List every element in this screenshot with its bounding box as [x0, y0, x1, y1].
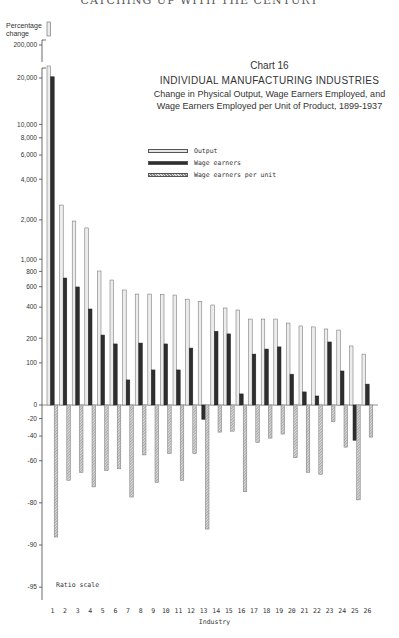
bar-wage-earners-6: [114, 344, 118, 405]
bar-output-16: [236, 310, 240, 405]
bar-output-23: [324, 329, 328, 405]
bar-output-8: [135, 294, 139, 405]
bar-wage-earners-per-unit-14: [218, 405, 222, 432]
bar-wage-earners-5: [101, 335, 105, 405]
bar-output-17: [249, 319, 253, 405]
bar-wage-earners-22: [315, 396, 319, 405]
bar-output-11: [173, 295, 177, 405]
bar-output-18: [261, 319, 265, 405]
x-axis-label: Industry: [0, 618, 399, 626]
x-category-label: 4: [88, 607, 92, 615]
x-category-label: 6: [113, 607, 117, 615]
bar-wage-earners-23: [328, 342, 332, 405]
y-axis: 200,00020,00010,0008,0006,0004,0002,0001…: [14, 40, 379, 600]
bar-wage-earners-per-unit-12: [193, 405, 197, 454]
bar-output-15: [223, 308, 227, 405]
bar-wage-earners-per-unit-17: [256, 405, 260, 442]
bar-output-3: [72, 221, 76, 405]
y-tick-label: 0: [33, 401, 37, 408]
y-tick-label: -20: [28, 415, 38, 422]
bar-wage-earners-per-unit-7: [130, 405, 134, 497]
bar-output-13: [198, 301, 202, 405]
x-category-label: 16: [237, 607, 245, 615]
bar-wage-earners-21: [303, 392, 307, 405]
bar-wage-earners-per-unit-2: [67, 405, 71, 480]
bar-wage-earners-10: [164, 344, 168, 405]
bar-output-12: [186, 299, 190, 405]
y-tick-label: 200,000: [14, 41, 38, 48]
bar-wage-earners-2: [63, 278, 67, 405]
bar-wage-earners-11: [177, 370, 181, 405]
y-tick-label: 8,000: [21, 134, 38, 141]
bars: [47, 22, 373, 537]
bar-wage-earners-4: [88, 309, 92, 405]
bar-wage-earners-7: [126, 380, 130, 405]
bar-wage-earners-per-unit-13: [205, 405, 209, 529]
bar-output-2: [60, 205, 64, 405]
bar-output-21: [299, 326, 303, 405]
bar-wage-earners-per-unit-19: [281, 405, 285, 434]
bar-wage-earners-18: [265, 349, 269, 405]
bar-wage-earners-per-unit-20: [294, 405, 298, 458]
x-category-label: 2: [63, 607, 67, 615]
bar-output-9: [148, 294, 152, 405]
bar-output-5: [97, 271, 101, 405]
x-category-label: 13: [200, 607, 208, 615]
bar-wage-earners-13: [202, 405, 206, 419]
bar-wage-earners-per-unit-21: [306, 405, 310, 472]
chart-plot-area: 200,00020,00010,0008,0006,0004,0002,0001…: [0, 0, 399, 638]
bar-wage-earners-per-unit-22: [319, 405, 323, 474]
y-tick-label: -40: [28, 432, 38, 439]
x-category-label: 26: [363, 607, 371, 615]
bar-wage-earners-per-unit-1: [54, 405, 58, 537]
x-category-label: 7: [126, 607, 130, 615]
bar-output-1: [47, 66, 51, 405]
bar-wage-earners-1: [51, 77, 55, 405]
bar-wage-earners-17: [252, 354, 256, 405]
x-category-label: 25: [351, 607, 359, 615]
bar-wage-earners-per-unit-10: [168, 405, 172, 454]
bar-output-14: [211, 305, 215, 405]
x-category-label: 19: [275, 607, 283, 615]
y-tick-label: -60: [28, 457, 38, 464]
y-tick-label: 100: [26, 359, 37, 366]
y-tick-label: 1,000: [21, 256, 38, 263]
bar-output-22: [312, 327, 316, 405]
bar-wage-earners-per-unit-15: [231, 405, 235, 431]
x-category-label: 17: [250, 607, 258, 615]
x-category-label: 10: [162, 607, 170, 615]
y-tick-label: 400: [26, 303, 37, 310]
bar-wage-earners-per-unit-8: [142, 405, 146, 455]
bar-output-19: [274, 319, 278, 405]
y-tick-label: 800: [26, 268, 37, 275]
bar-output-20: [286, 323, 290, 405]
bar-wage-earners-24: [340, 371, 344, 405]
bar-wage-earners-26: [366, 384, 370, 405]
y-tick-label: 4,000: [21, 176, 38, 183]
bar-wage-earners-per-unit-9: [155, 405, 159, 482]
bar-wage-earners-per-unit-23: [331, 405, 335, 422]
bar-output-24: [337, 330, 341, 405]
bar-wage-earners-per-unit-24: [344, 405, 348, 447]
x-category-label: 20: [288, 607, 296, 615]
bar-wage-earners-15: [227, 334, 231, 405]
bar-wage-earners-per-unit-6: [117, 405, 121, 469]
bar-wage-earners-per-unit-4: [92, 405, 96, 487]
x-category-label: 5: [101, 607, 105, 615]
x-category-label: 24: [338, 607, 346, 615]
ratio-scale-note: Ratio scale: [56, 581, 99, 589]
bar-wage-earners-25: [353, 405, 357, 440]
x-category-label: 12: [187, 607, 195, 615]
bar-wage-earners-14: [214, 331, 218, 405]
y-tick-label: 10,000: [17, 121, 37, 128]
bar-wage-earners-19: [277, 347, 281, 405]
bar-wage-earners-per-unit-18: [268, 405, 272, 438]
bar-output-1-upper: [47, 22, 51, 36]
x-category-label: 18: [263, 607, 271, 615]
y-tick-label: -95: [28, 583, 38, 590]
x-category-label: 21: [300, 607, 308, 615]
x-category-label: 15: [225, 607, 233, 615]
bar-wage-earners-12: [189, 348, 193, 405]
x-category-label: 1: [50, 607, 54, 615]
y-tick-label: 200: [26, 335, 37, 342]
